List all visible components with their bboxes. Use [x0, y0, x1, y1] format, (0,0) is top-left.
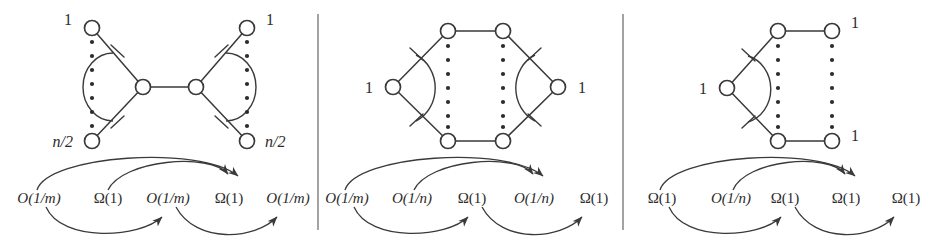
annotation-arrow-1 [345, 157, 543, 190]
annotation-arrow-4 [176, 207, 277, 235]
panel-middle: 1 1 O(1/m) O(1/n) Ω(1) O(1/n) Ω(1) [325, 24, 608, 235]
node-top-right[interactable] [825, 24, 840, 39]
annotation-arrow-4 [795, 207, 894, 235]
annotation-arrow-2 [733, 161, 845, 190]
annotation-label-1: O(1/m) [17, 190, 60, 207]
node-label-right: 1 [578, 79, 586, 96]
multiplicity-arc-right [226, 53, 256, 121]
node-label-left: 1 [365, 79, 373, 96]
annotation-label-5: Ω(1) [580, 190, 609, 207]
node-label-top-right: 1 [851, 14, 859, 31]
node-label-bottom-right: 1 [851, 127, 859, 144]
panel-left: 1 n/2 1 n/2 O(1/m) Ω(1) O(1/m) Ω(1) O(1/… [17, 11, 309, 235]
annotation-label-3: Ω(1) [771, 190, 800, 207]
annotation-arrow-4 [482, 207, 582, 235]
annotation-label-4: Ω(1) [832, 190, 861, 207]
multiplicity-arc-left [416, 55, 435, 121]
edge-left-botmid [393, 87, 448, 141]
edge-left-topmid [393, 31, 448, 87]
panel-right-graph: 1 1 1 [699, 14, 859, 149]
node-top-right[interactable] [240, 21, 255, 36]
vertical-dots-left [446, 44, 450, 129]
edge-br-hubR [196, 87, 247, 141]
panel-left-graph: 1 n/2 1 n/2 [53, 11, 286, 150]
node-bottom-right[interactable] [496, 134, 511, 149]
annotation-label-3: O(1/m) [146, 190, 189, 207]
node-right[interactable] [551, 80, 566, 95]
node-left[interactable] [386, 80, 401, 95]
node-label-bottom-right: n/2 [265, 133, 285, 150]
annotation-label-4: O(1/n) [514, 190, 554, 207]
panel-left-annotations: O(1/m) Ω(1) O(1/m) Ω(1) O(1/m) [17, 157, 309, 234]
panel-middle-graph: 1 1 [365, 24, 586, 149]
vertical-dots-right [245, 40, 249, 128]
annotation-arrow-2 [414, 161, 533, 190]
multiplicity-arc-right [516, 55, 535, 121]
arc-tick-2 [410, 114, 423, 126]
annotation-arrow-3 [669, 207, 781, 233]
node-top-left[interactable] [771, 24, 786, 39]
arc-tick-2 [742, 116, 755, 128]
panel-right: 1 1 1 Ω(1) O(1/n) Ω(1) Ω(1) Ω(1) [648, 14, 921, 235]
arc-tick-3 [215, 45, 228, 57]
edge-tr-hubR [196, 28, 247, 87]
annotation-label-3: Ω(1) [458, 190, 487, 207]
annotation-arrow-1 [660, 157, 855, 190]
arc-tick-3 [528, 48, 541, 60]
annotation-arrow-1 [37, 157, 238, 190]
annotation-label-1: Ω(1) [648, 190, 677, 207]
node-bottom-right[interactable] [240, 134, 255, 149]
node-label-bottom-left: n/2 [53, 133, 73, 150]
annotation-label-5: Ω(1) [892, 190, 921, 207]
node-top-left[interactable] [85, 21, 100, 36]
figure-container: 1 n/2 1 n/2 O(1/m) Ω(1) O(1/m) Ω(1) O(1/… [0, 0, 940, 243]
node-bottom-left[interactable] [85, 134, 100, 149]
figure-canvas: 1 n/2 1 n/2 O(1/m) Ω(1) O(1/m) Ω(1) O(1/… [0, 0, 940, 243]
annotation-label-2: O(1/n) [392, 190, 432, 207]
arc-tick-4 [528, 114, 541, 126]
annotation-label-2: O(1/n) [711, 190, 751, 207]
node-hub-left[interactable] [136, 80, 151, 95]
annotation-label-4: Ω(1) [215, 190, 244, 207]
arc-tick-1 [111, 45, 124, 57]
annotation-label-2: Ω(1) [94, 190, 123, 207]
edge-right-topmid [503, 31, 558, 87]
node-bottom-right[interactable] [825, 134, 840, 149]
annotation-label-5: O(1/m) [266, 190, 309, 207]
vertical-dots-left [90, 40, 94, 128]
annotation-arrow-3 [46, 207, 162, 233]
edge-bl-hubL [92, 87, 143, 141]
multiplicity-arc-left [748, 56, 771, 122]
node-label-top-right: 1 [266, 11, 274, 28]
node-hub-right[interactable] [189, 80, 204, 95]
panel-middle-annotations: O(1/m) O(1/n) Ω(1) O(1/n) Ω(1) [325, 157, 608, 234]
node-bottom-left[interactable] [441, 134, 456, 149]
arc-tick-1 [742, 49, 755, 61]
node-top-right[interactable] [496, 24, 511, 39]
node-top-left[interactable] [441, 24, 456, 39]
edge-tl-hubL [92, 28, 143, 87]
vertical-dots-right [830, 44, 834, 129]
annotation-arrow-3 [354, 207, 468, 233]
vertical-dots-left [776, 44, 780, 129]
edge-right-botmid [503, 87, 558, 141]
multiplicity-arc-left [83, 53, 113, 121]
node-label-left: 1 [699, 80, 707, 97]
vertical-dots-right [501, 44, 505, 129]
node-label-top-left: 1 [64, 11, 72, 28]
annotation-label-1: O(1/m) [325, 190, 368, 207]
node-bottom-left[interactable] [771, 134, 786, 149]
annotation-arrow-2 [108, 161, 228, 190]
panel-right-annotations: Ω(1) O(1/n) Ω(1) Ω(1) Ω(1) [648, 157, 921, 234]
arc-tick-1 [410, 48, 423, 60]
node-left[interactable] [720, 81, 735, 96]
